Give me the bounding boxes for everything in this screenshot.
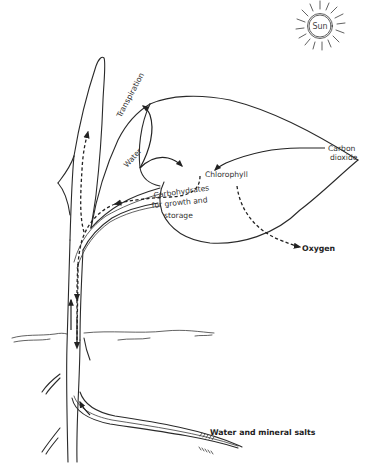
sun-icon: Sun (296, 1, 345, 50)
plant-diagram: Sun (0, 0, 372, 467)
root-branch-lower-left (42, 428, 60, 452)
root-branch-right (84, 338, 90, 360)
water-to-chlorophyll-arrow (140, 157, 182, 168)
main-root (72, 392, 242, 448)
leaf (139, 96, 358, 243)
water-and-mineral-salts-label: Water and mineral salts (210, 428, 316, 437)
carbohydrates-up-arrow (81, 132, 88, 232)
stem-left-edge (67, 240, 70, 462)
ground-line (12, 330, 214, 342)
chlorophyll-label: Chlorophyll (205, 170, 248, 179)
carbon-dioxide-label-2: dioxide (330, 153, 358, 162)
root-branch-upper-left (42, 374, 60, 392)
oxygen-label: Oxygen (302, 244, 335, 253)
left-branch (58, 156, 74, 183)
carbon-dioxide-arrow (215, 148, 325, 170)
carbohydrates-label-3: storage (164, 211, 193, 220)
transpiration-label: Transpiration (114, 71, 146, 120)
oxygen-arrow (237, 186, 300, 247)
carbon-dioxide-label-1: Carbon (328, 144, 356, 153)
sun-label: Sun (312, 22, 327, 31)
